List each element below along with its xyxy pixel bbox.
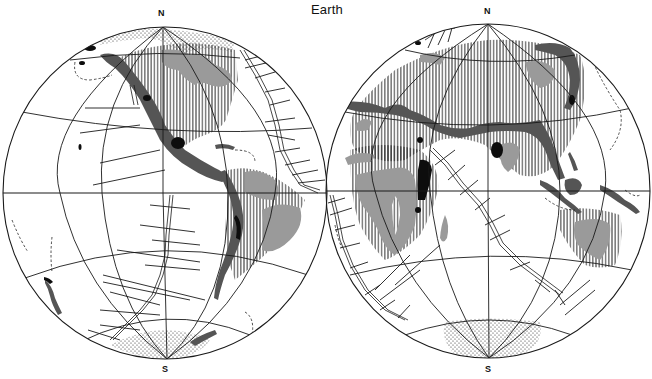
black-patch [171,137,185,149]
eastern-hemisphere [326,24,650,359]
black-patch [79,61,85,65]
black-patch-east [415,207,421,213]
southwest-arc [45,280,62,315]
caribbean-arc [215,144,235,150]
dashed-boundary [245,312,253,335]
black-patch-east [417,137,423,143]
dashed-boundary [75,62,112,80]
dashed-boundary [12,220,28,252]
philippines [568,152,578,171]
dashed-boundary [235,150,255,162]
new-guinea [600,185,640,214]
madagascar [440,215,448,242]
hemisphere-map [0,0,652,379]
east-pacific-rise [88,195,205,340]
dashed-boundary [51,237,52,272]
black-patch [143,95,151,101]
borneo [565,178,582,195]
south-america-shield-2 [262,204,301,251]
hawaii-island [79,144,82,150]
black-patch-east [491,142,503,158]
dashed-boundary-east [590,55,621,150]
antarctic-stipple-east [444,319,541,359]
